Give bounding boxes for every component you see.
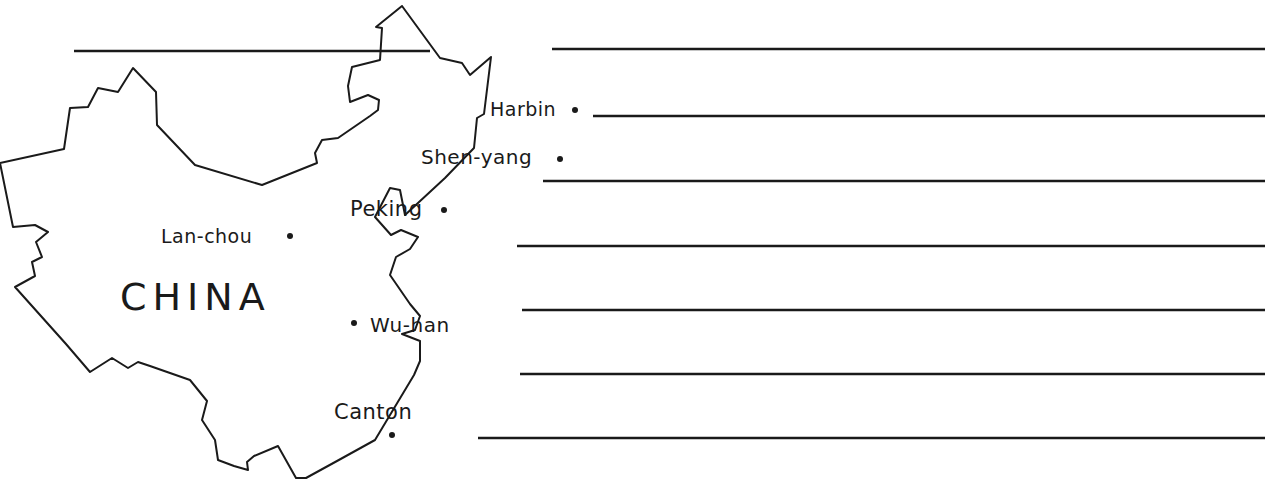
city-dot-lan-chou bbox=[287, 233, 293, 239]
city-label-peking: Peking bbox=[350, 197, 422, 221]
city-label-shen-yang: Shen-yang bbox=[421, 145, 532, 169]
city-label-canton: Canton bbox=[334, 400, 412, 424]
city-label-lan-chou: Lan-chou bbox=[161, 225, 252, 247]
china-map bbox=[0, 0, 1267, 498]
city-dot-shen-yang bbox=[557, 156, 563, 162]
city-dot-wu-han bbox=[351, 320, 357, 326]
city-dot-harbin bbox=[572, 107, 578, 113]
country-label-china: CHINA bbox=[120, 275, 271, 319]
city-dot-peking bbox=[441, 207, 447, 213]
city-dot-canton bbox=[389, 432, 395, 438]
city-label-harbin: Harbin bbox=[490, 98, 556, 120]
city-label-wu-han: Wu-han bbox=[370, 313, 450, 337]
